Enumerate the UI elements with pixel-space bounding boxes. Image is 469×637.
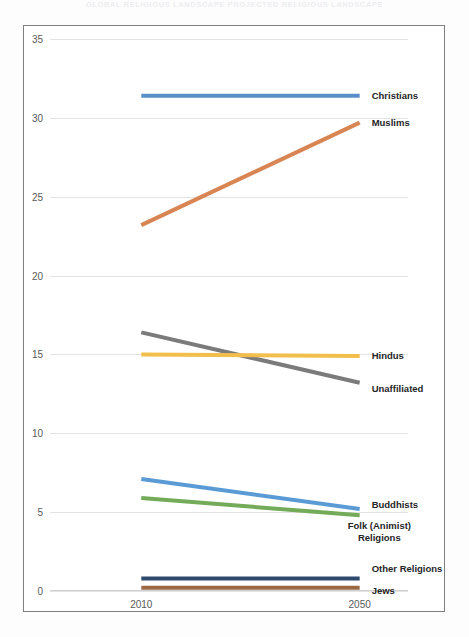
y-tick-label: 35 xyxy=(32,34,43,45)
series-label: Unaffiliated xyxy=(372,383,424,395)
series-label-line: Hindus xyxy=(372,350,404,361)
x-tick-label: 2010 xyxy=(130,599,152,610)
series-label: Muslims xyxy=(372,117,410,129)
series-label-line: Jews xyxy=(372,585,395,596)
series-lines xyxy=(50,39,408,591)
series-line xyxy=(141,354,359,356)
series-line xyxy=(141,123,359,226)
y-tick-label: 0 xyxy=(37,586,43,597)
y-tick-label: 30 xyxy=(32,112,43,123)
chart-frame: 05101520253035 20102050 ChristiansMuslim… xyxy=(23,25,445,612)
series-label-line: Christians xyxy=(372,90,418,101)
page-header-text: GLOBAL RELIGIOUS LANDSCAPE PROJECTED REL… xyxy=(0,0,469,9)
y-tick-label: 5 xyxy=(37,507,43,518)
series-label: Buddhists xyxy=(372,499,418,511)
series-label-line: Other Religions xyxy=(372,564,443,575)
y-tick-label: 20 xyxy=(32,270,43,281)
series-label-line: Folk (Animist) xyxy=(348,520,411,531)
series-label: Folk (Animist)Religions xyxy=(348,520,411,543)
series-label: Hindus xyxy=(372,350,404,362)
scanned-page: GLOBAL RELIGIOUS LANDSCAPE PROJECTED REL… xyxy=(0,0,469,637)
series-label: Jews xyxy=(372,585,395,597)
series-label: Other Religions xyxy=(372,564,443,576)
y-tick-label: 15 xyxy=(32,349,43,360)
x-tick-label: 2050 xyxy=(349,599,371,610)
series-line xyxy=(141,498,359,515)
y-tick-label: 10 xyxy=(32,428,43,439)
plot-area: 05101520253035 20102050 ChristiansMuslim… xyxy=(50,39,408,591)
series-label-line: Muslims xyxy=(372,117,410,128)
y-tick-label: 25 xyxy=(32,191,43,202)
series-label: Christians xyxy=(372,90,418,102)
series-line xyxy=(141,479,359,509)
series-label-line: Unaffiliated xyxy=(372,383,424,394)
series-label-line: Religions xyxy=(358,531,401,542)
series-label-line: Buddhists xyxy=(372,499,418,510)
gridline xyxy=(50,591,408,592)
